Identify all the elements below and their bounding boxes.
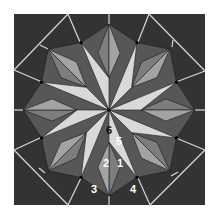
vertex-dot (175, 80, 178, 83)
vertex-dot (175, 136, 178, 139)
vertex-dot (40, 136, 43, 139)
vertex-dot (107, 108, 110, 111)
vertex-dot (79, 41, 82, 44)
piece-label-3: 3 (91, 183, 97, 195)
piece-label-2: 2 (103, 157, 109, 169)
vertex-dot (135, 176, 138, 179)
piece-label-5: 5 (116, 135, 122, 147)
piece-label-6: 6 (106, 124, 112, 136)
piece-label-1: 1 (117, 157, 123, 169)
vertex-dot (79, 176, 82, 179)
vertex-dot (135, 41, 138, 44)
vertex-dot (40, 80, 43, 83)
quilt-star-diagram: 6 5 2 1 3 4 (0, 0, 215, 212)
piece-label-4: 4 (130, 183, 137, 195)
